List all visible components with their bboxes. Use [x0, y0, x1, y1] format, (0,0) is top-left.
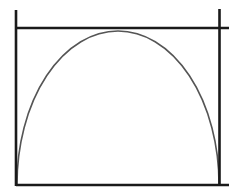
- arch-diagram: [0, 0, 240, 193]
